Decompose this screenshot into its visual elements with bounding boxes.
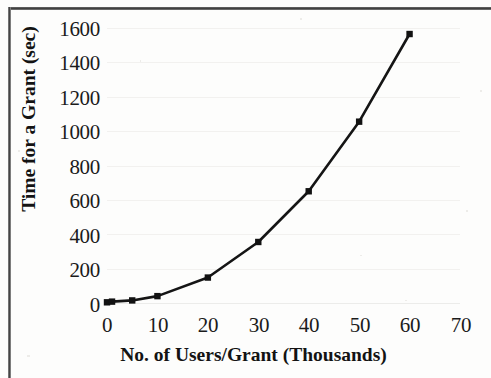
x-tick-label: 20 xyxy=(198,315,218,336)
x-tick-label: 50 xyxy=(350,315,370,336)
data-point-marker xyxy=(129,297,135,303)
data-point-marker xyxy=(154,293,160,299)
x-tick-label: 40 xyxy=(299,315,319,336)
x-tick-label: 60 xyxy=(400,315,420,336)
data-point-marker xyxy=(109,298,115,304)
data-point-marker xyxy=(406,31,412,37)
data-series-svg xyxy=(99,20,468,311)
data-point-marker xyxy=(306,188,312,194)
x-tick-label: 0 xyxy=(102,315,112,336)
data-point-marker xyxy=(205,274,211,280)
chart-figure: 1600 1400 1200 1000 800 600 400 200 0 0 … xyxy=(0,0,491,378)
x-axis-title: No. of Users/Grant (Thousands) xyxy=(0,344,491,366)
y-axis-title: Time for a Grant (sec) xyxy=(18,0,40,244)
plot-area xyxy=(107,28,460,303)
data-point-marker xyxy=(356,118,362,124)
x-tick-label: 30 xyxy=(249,315,269,336)
series-markers xyxy=(104,31,413,306)
data-point-marker xyxy=(255,239,261,245)
x-tick-label: 10 xyxy=(148,315,168,336)
series-line xyxy=(107,34,410,302)
x-tick-label: 70 xyxy=(451,315,471,336)
